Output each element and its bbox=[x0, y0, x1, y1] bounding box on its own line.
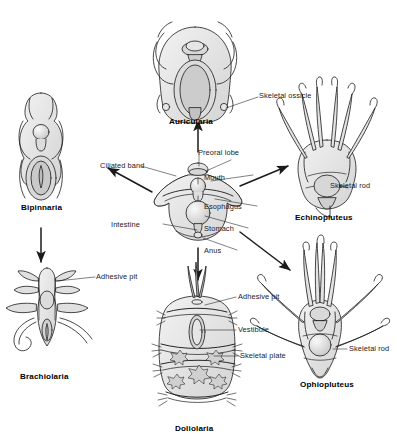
label-anus: Anus bbox=[204, 246, 221, 255]
label-ciliated-band: Ciliated band bbox=[100, 161, 144, 170]
form-name-echinopluteus: Echinopluteus bbox=[295, 213, 353, 222]
label-intestine: Intestine bbox=[111, 220, 140, 229]
label-preoral-lobe: Preoral lobe bbox=[198, 148, 239, 157]
form-name-doliolaria: Doliolaria bbox=[175, 424, 213, 433]
label-skeletal-rod-ophiopluteus: Skeletal rod bbox=[349, 344, 389, 353]
form-name-auricularia: Auricularia bbox=[169, 117, 213, 126]
arrow-to-bipinnaria bbox=[108, 168, 152, 192]
diagram-canvas: Ciliated band Preoral lobe Mouth Esophag… bbox=[0, 0, 397, 439]
brachiolaria-art bbox=[6, 268, 92, 351]
form-name-ophiopluteus: Ophiopluteus bbox=[300, 380, 354, 389]
label-skeletal-rod-echinopluteus: Skeletal rod bbox=[330, 181, 370, 190]
label-skeletal-plate: Skeletal plate bbox=[240, 351, 286, 360]
bipinnaria-art bbox=[19, 93, 63, 200]
auricularia-art bbox=[153, 22, 237, 123]
doliolaria-art bbox=[152, 262, 242, 406]
label-skeletal-ossicle: Skeletal ossicle bbox=[259, 91, 312, 100]
label-mouth: Mouth bbox=[204, 173, 225, 182]
label-stomach: Stomach bbox=[204, 224, 234, 233]
label-vestibule: Vestibule bbox=[238, 325, 269, 334]
form-name-brachiolaria: Brachiolaria bbox=[20, 372, 69, 381]
label-esophagus: Esophagus bbox=[204, 202, 242, 211]
label-adhesive-pit-doliolaria: Adhesive pit bbox=[238, 292, 279, 301]
form-name-bipinnaria: Bipinnaria bbox=[21, 203, 62, 212]
arrow-to-ophiopluteus bbox=[240, 232, 290, 270]
label-adhesive-pit-brachiolaria: Adhesive pit bbox=[96, 272, 137, 281]
